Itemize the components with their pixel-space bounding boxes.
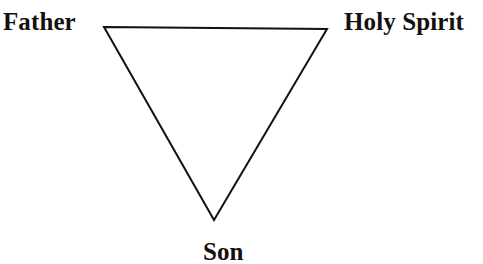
node-label-son: Son bbox=[203, 239, 244, 264]
diagram-canvas: Father Holy Spirit Son bbox=[0, 0, 483, 264]
triangle-shape bbox=[0, 0, 483, 264]
triangle-outline bbox=[104, 27, 327, 220]
node-label-father: Father bbox=[3, 9, 76, 34]
node-label-holy-spirit: Holy Spirit bbox=[344, 9, 464, 34]
